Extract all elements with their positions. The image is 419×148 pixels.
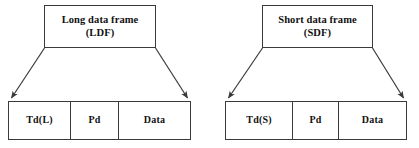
ldf-field-td: Td(L) (8, 101, 71, 140)
short-data-frame-header-label: Short data frame (SDF) (274, 14, 361, 40)
long-data-frame-header-line2: (LDF) (62, 27, 139, 40)
ldf-field-data: Data (118, 101, 191, 140)
sdf-field-pd: Pd (292, 101, 339, 140)
long-data-frame-header-line1: Long data frame (62, 14, 139, 25)
ldf-field-pd-label: Pd (88, 114, 100, 126)
short-data-frame-header-line1: Short data frame (278, 14, 357, 25)
ldf-field-pd: Pd (70, 101, 119, 140)
sdf-field-pd-label: Pd (309, 114, 321, 126)
long-data-frame-header-box: Long data frame (LDF) (44, 5, 156, 48)
sdf-field-td-label: Td(S) (246, 114, 271, 126)
sdf-field-td: Td(S) (225, 101, 293, 140)
sdf-right-expansion-arrow (373, 48, 404, 98)
ldf-left-expansion-arrow (12, 48, 45, 98)
frame-structure-diagram: Long data frame (LDF) Td(L) Pd Data Shor… (0, 0, 419, 148)
ldf-field-td-label: Td(L) (26, 114, 53, 126)
ldf-right-expansion-arrow (156, 48, 188, 98)
short-data-frame-header-line2: (SDF) (278, 27, 357, 40)
long-data-frame-header-label: Long data frame (LDF) (58, 14, 143, 40)
sdf-field-data-label: Data (362, 114, 383, 126)
ldf-field-data-label: Data (144, 114, 165, 126)
sdf-field-data: Data (338, 101, 407, 140)
short-data-frame-header-box: Short data frame (SDF) (262, 5, 373, 48)
sdf-left-expansion-arrow (229, 48, 263, 98)
